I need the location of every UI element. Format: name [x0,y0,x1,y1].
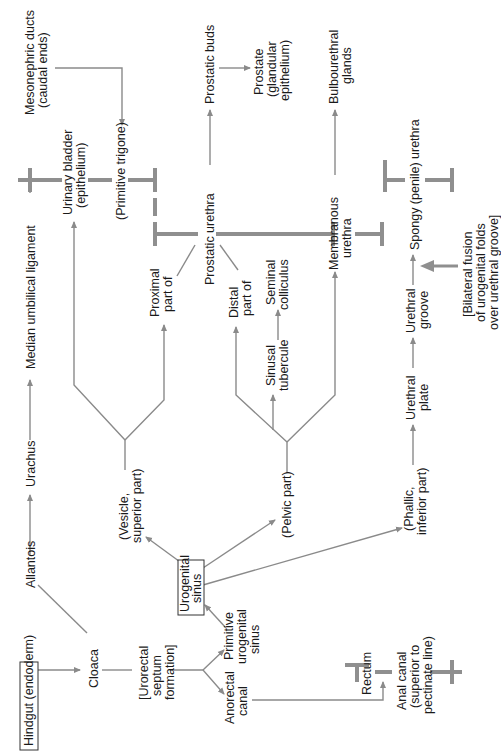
label-anal-canal-3: pectinate line) [421,636,435,714]
label-prostate-3: epithelium) [278,40,292,101]
label-ug-sinus-2: sinus [190,574,204,603]
labels: Hindgut (endoderm) Allantois Cloaca [Uro… [22,10,501,746]
label-proximal-1: Proximal [148,268,162,317]
label-urorectal-1: [Urorectal [137,646,151,700]
label-allantois: Allantois [24,541,38,588]
label-prostatic-urethra: Prostatic urethra [203,193,217,285]
label-urorectal-3: formation] [163,644,177,700]
label-primitive-ug-3: sinus [248,625,262,654]
arrow-to-primitive-ug-sinus [203,650,224,670]
label-primitive-ug-1: Primitive [222,612,236,660]
label-vesicle-1: (Vesicle, [117,493,131,540]
label-urinary-bladder-2: (epithelium) [74,143,88,208]
label-bilateral-2: of urogenital folds [474,223,488,322]
label-mesonephric-1: Mesonephric ducts [23,10,37,115]
arrow-to-proximal [125,325,164,440]
arrow-ugsinus-pelvic [203,520,275,568]
label-bulbourethral-1: Bulbourethral [327,30,341,104]
line-cloaca-allantois [38,585,87,633]
line-proximal-prostatic [177,245,195,276]
label-membranous-1: Membranous [327,197,341,270]
label-urethral-plate-1: Urethral [404,376,418,420]
label-urethral-groove-2: groove [417,291,431,329]
label-bulbourethral-2: glands [340,47,354,84]
label-anorectal-1: Anorectal [223,671,237,724]
label-distal-2: part of [240,280,254,316]
line-pelvic-right [287,345,335,442]
label-hindgut: Hindgut (endoderm) [22,635,36,746]
arrow-ugsinus-phallic [203,528,402,585]
label-urethral-groove-1: Urethral [404,289,418,333]
label-phallic-2: inferior part) [415,468,429,535]
label-urinary-bladder-1: Urinary bladder [61,130,75,215]
label-primitive-trigone: (Primitive trigone) [114,122,128,220]
urogenital-development-diagram: Hindgut (endoderm) Allantois Cloaca [Uro… [0,0,501,751]
label-phallic-1: (Phallic, [402,487,416,531]
connectors [30,30,458,700]
line-vesicle-left [74,345,125,440]
label-spongy-urethra: Spongy (penile) urethra [408,119,422,250]
label-anorectal-2: canal [236,686,250,716]
thick-arrowhead [420,260,434,272]
label-urethral-plate-2: plate [417,384,431,411]
label-urorectal-2: septum [150,655,164,696]
region-brackets [18,160,462,684]
label-membranous-2: urethra [340,218,354,258]
label-sinusal-1: Sinusal [264,345,278,386]
label-vesicle-2: superior part) [130,469,144,543]
label-anal-canal-1: Anal canal [395,652,409,710]
label-primitive-ug-2: urogenital [235,609,249,664]
label-distal-1: Distal [227,287,241,318]
label-mesonephric-2: (caudal ends) [36,32,50,108]
label-bilateral-1: [Bilateral fusion [461,231,475,317]
label-urachus: Urachus [24,440,38,487]
label-anal-canal-2: (superior to [408,645,422,708]
label-prostate-2: (glandular [265,41,279,97]
arrow-to-anorectal-canal [203,670,224,694]
label-pelvic: (Pelvic part) [280,471,294,538]
label-cloaca: Cloaca [87,649,101,688]
label-seminal-1: Seminal [264,260,278,305]
label-bilateral-3: over urethral groove] [487,215,501,330]
label-prostatic-buds: Prostatic buds [203,25,217,104]
line-distal-prostatic [220,245,238,270]
label-proximal-2: part of [161,276,175,312]
label-seminal-2: colliculus [277,259,291,310]
label-prostate-1: Prostate [252,48,266,95]
arrow-mesonephric-trigone [55,68,122,125]
label-rectum: Rectum [360,652,374,695]
label-sinusal-2: tubercule [277,340,291,391]
label-median-umbilical-ligament: Median umbilical ligament [24,225,38,369]
